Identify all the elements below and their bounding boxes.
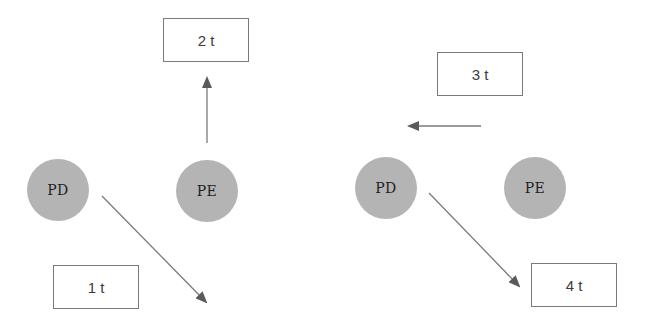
label-box-2t: 2 t: [163, 18, 249, 62]
label-box-4t: 4 t: [531, 263, 617, 307]
label-1t-text: 1 t: [88, 279, 105, 296]
right-pd-node: PD: [355, 157, 417, 219]
left-pe-node: PE: [176, 160, 238, 222]
diagram-canvas: PD PE 2 t 1 t PD PE 3 t 4 t: [0, 0, 655, 331]
label-box-3t: 3 t: [437, 52, 523, 96]
right-pe-label: PE: [525, 180, 546, 196]
left-pd-node: PD: [27, 159, 89, 221]
label-2t-text: 2 t: [198, 32, 215, 49]
left-pd-label: PD: [47, 182, 69, 198]
right-pd-label: PD: [375, 180, 397, 196]
right-pe-node: PE: [504, 157, 566, 219]
left-pe-label: PE: [197, 183, 218, 199]
label-box-1t: 1 t: [53, 265, 139, 309]
arrow-down-right-right-icon: [429, 193, 519, 286]
label-3t-text: 3 t: [472, 66, 489, 83]
label-4t-text: 4 t: [566, 277, 583, 294]
